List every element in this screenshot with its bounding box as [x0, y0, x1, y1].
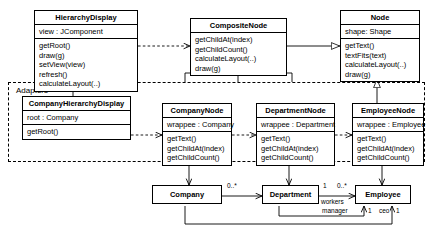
attribute: wrappee : Department: [261, 119, 331, 130]
class-employee[interactable]: Employee: [355, 185, 411, 204]
class-companyhierarchydisplay-attributes: root : Company: [23, 110, 130, 124]
class-employeenode-operations: getText() getChildAt(index) getChildCoun…: [353, 131, 423, 165]
label-department-employee-multiplicity: 0..*: [336, 182, 348, 190]
class-companynode-name: CompanyNode: [163, 104, 231, 117]
class-employeenode[interactable]: EmployeeNode wrappee : Employee getText(…: [352, 103, 424, 166]
operation: setView(view): [39, 60, 134, 70]
operation: calculateLayout(..): [345, 60, 416, 70]
operation: calculateLayout(..): [195, 54, 283, 64]
operation: getChildAt(index): [261, 144, 331, 154]
class-hierarchydisplay-operations: getRoot() draw(g) setView(view) refresh(…: [35, 38, 137, 91]
class-company[interactable]: Company: [152, 185, 222, 204]
class-companyhierarchydisplay[interactable]: CompanyHierarchyDisplay root : Company g…: [22, 96, 131, 140]
operation: textFits(text): [345, 51, 416, 61]
class-hierarchydisplay[interactable]: HierarchyDisplay view : JComponent getRo…: [34, 10, 138, 92]
class-departmentnode-attributes: wrappee : Department: [257, 117, 334, 131]
attribute: wrappee : Company: [167, 119, 228, 130]
attribute: root : Company: [27, 112, 127, 123]
class-company-name: Company: [153, 186, 221, 203]
class-department[interactable]: Department: [262, 185, 319, 204]
attribute: view : JComponent: [39, 26, 134, 37]
class-companynode-operations: getText() getChildAt(index) getChildCoun…: [163, 131, 231, 165]
operation: getChildCount(): [357, 153, 420, 163]
class-hierarchydisplay-name: HierarchyDisplay: [35, 11, 137, 24]
operation: getChildAt(index): [357, 144, 420, 154]
uml-class-diagram: Adapters HierarchyDisplay view : JCompon…: [0, 0, 433, 234]
class-departmentnode-operations: getText() getChildAt(index) getChildCoun…: [257, 131, 334, 165]
operation: draw(g): [345, 70, 416, 80]
operation: getChildCount(): [167, 153, 228, 163]
label-ceo-role: ceo: [378, 207, 390, 215]
label-company-department-multiplicity: 0..*: [226, 182, 238, 190]
class-compositenode[interactable]: CompositeNode getChildAt(index) getChild…: [190, 18, 287, 76]
operation: getText(): [261, 134, 331, 144]
class-companyhierarchydisplay-name: CompanyHierarchyDisplay: [23, 97, 130, 110]
label-ceo-multiplicity: 1: [395, 207, 401, 215]
label-manager-multiplicity: 1: [367, 207, 373, 215]
operation: getRoot(): [39, 41, 134, 51]
class-node-operations: getText() textFits(text) calculateLayout…: [341, 38, 419, 81]
class-compositenode-name: CompositeNode: [191, 19, 286, 32]
class-departmentnode-name: DepartmentNode: [257, 104, 334, 117]
operation: getChildCount(): [261, 153, 331, 163]
class-node[interactable]: Node shape: Shape getText() textFits(tex…: [340, 10, 420, 82]
class-companynode[interactable]: CompanyNode wrappee : Company getText() …: [162, 103, 232, 166]
operation: calculateLayout(..): [39, 79, 134, 89]
operation: draw(g): [195, 64, 283, 74]
class-companyhierarchydisplay-operations: getRoot(): [23, 124, 130, 139]
class-employeenode-name: EmployeeNode: [353, 104, 423, 117]
label-manager-role: manager: [321, 207, 349, 215]
class-node-attributes: shape: Shape: [341, 24, 419, 38]
class-node-name: Node: [341, 11, 419, 24]
label-department-end-multiplicity: 1: [322, 182, 328, 190]
attribute: wrappee : Employee: [357, 119, 420, 130]
operation: getText(): [167, 134, 228, 144]
class-compositenode-operations: getChildAt(index) getChildCount() calcul…: [191, 32, 286, 75]
operation: refresh(): [39, 70, 134, 80]
operation: getText(): [345, 41, 416, 51]
attribute: shape: Shape: [345, 26, 416, 37]
edge-company-to-employee-ceo: [185, 206, 392, 224]
class-companynode-attributes: wrappee : Company: [163, 117, 231, 131]
operation: draw(g): [39, 51, 134, 61]
operation: getChildAt(index): [195, 35, 283, 45]
class-employee-name: Employee: [356, 186, 410, 203]
class-department-name: Department: [263, 186, 318, 203]
operation: getRoot(): [27, 127, 127, 137]
class-departmentnode[interactable]: DepartmentNode wrappee : Department getT…: [256, 103, 335, 166]
operation: getText(): [357, 134, 420, 144]
label-workers-role: workers: [320, 198, 345, 206]
class-employeenode-attributes: wrappee : Employee: [353, 117, 423, 131]
operation: getChildAt(index): [167, 144, 228, 154]
operation: getChildCount(): [195, 45, 283, 55]
class-hierarchydisplay-attributes: view : JComponent: [35, 24, 137, 38]
